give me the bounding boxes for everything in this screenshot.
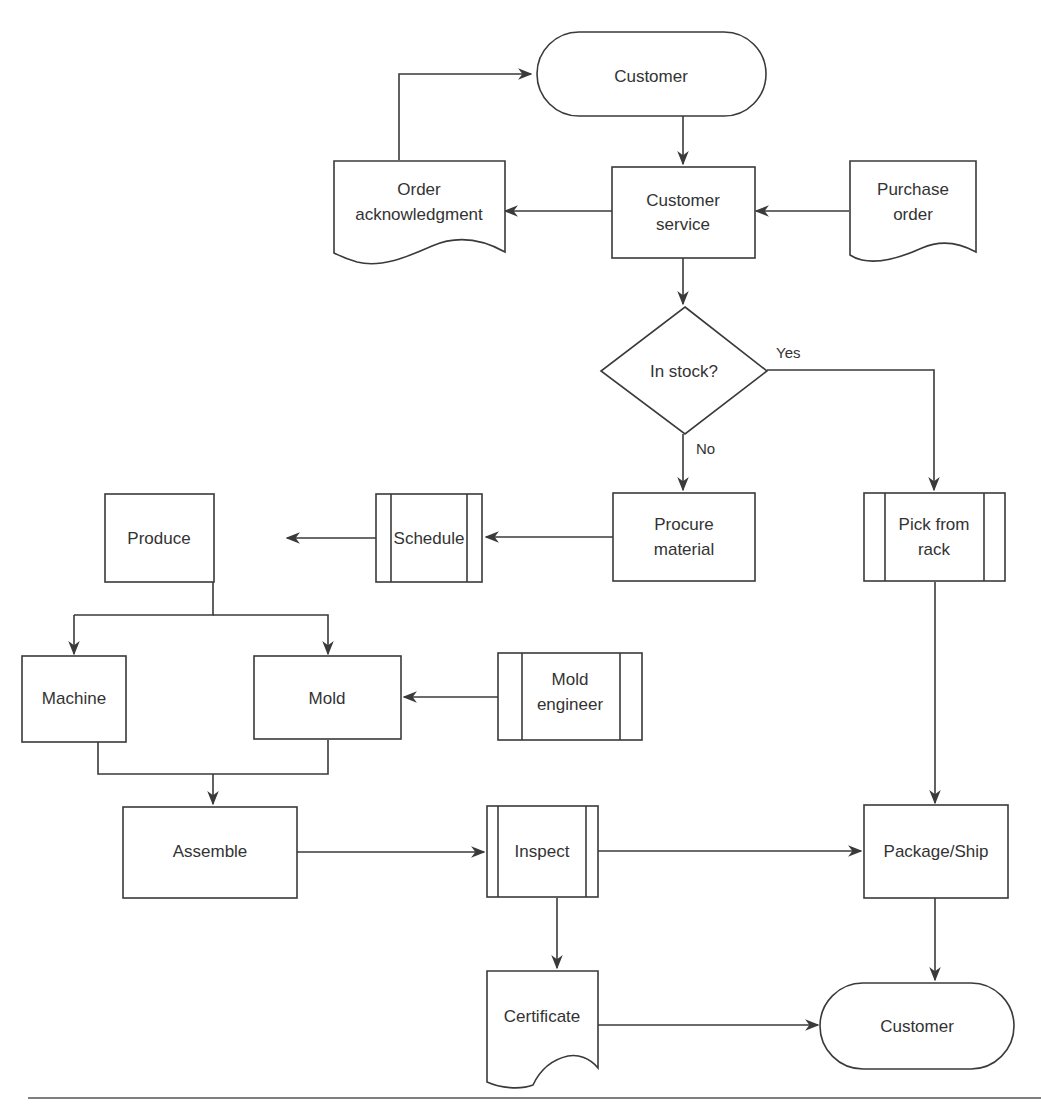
no-label: No	[696, 440, 715, 457]
node-in-stock-decision[interactable]: In stock?	[601, 307, 767, 434]
node-label: Customer	[614, 67, 688, 86]
edge-produce-split	[74, 582, 213, 615]
edge-merge-to-assemble	[98, 740, 328, 774]
node-assemble[interactable]: Assemble	[123, 807, 297, 898]
node-label-line1: Customer	[646, 191, 720, 210]
node-label: Assemble	[173, 842, 248, 861]
node-label: Mold	[309, 689, 346, 708]
node-label: Inspect	[515, 842, 570, 861]
node-customer-service[interactable]: Customer service	[612, 167, 755, 258]
node-order-acknowledgment[interactable]: Order acknowledgment	[334, 161, 505, 264]
node-label-line2: order	[893, 205, 933, 224]
node-label: Package/Ship	[884, 842, 989, 861]
node-label: Machine	[42, 689, 106, 708]
node-label-line2: rack	[918, 540, 951, 559]
node-pick-from-rack[interactable]: Pick from rack	[864, 493, 1005, 581]
node-procure-material[interactable]: Procure material	[613, 493, 755, 581]
node-customer-bottom[interactable]: Customer	[820, 983, 1014, 1069]
node-label: Produce	[127, 529, 190, 548]
node-label: Certificate	[504, 1007, 581, 1026]
node-label: In stock?	[650, 362, 718, 381]
edge-yes-to-pick-rack	[767, 370, 934, 490]
node-label: Customer	[880, 1017, 954, 1036]
node-label-line1: Order	[397, 180, 441, 199]
node-label-line1: Procure	[654, 515, 714, 534]
node-label-line2: acknowledgment	[355, 205, 483, 224]
node-machine[interactable]: Machine	[22, 656, 126, 742]
node-label-line1: Purchase	[877, 180, 949, 199]
node-certificate[interactable]: Certificate	[487, 971, 598, 1088]
yes-label: Yes	[776, 344, 800, 361]
node-customer-top[interactable]: Customer	[537, 32, 766, 116]
node-inspect[interactable]: Inspect	[487, 806, 598, 897]
edge-produce-to-mold	[213, 615, 328, 654]
caption-cropped	[28, 1104, 508, 1113]
node-purchase-order[interactable]: Purchase order	[850, 161, 976, 261]
node-mold[interactable]: Mold	[254, 656, 401, 739]
node-label-line2: material	[654, 540, 714, 559]
edge-order-ack-to-customer	[399, 74, 531, 160]
node-label-line1: Mold	[552, 670, 589, 689]
flowchart-canvas: Yes No Customer Order acknowledgment Cus…	[0, 0, 1041, 1113]
node-package-ship[interactable]: Package/Ship	[864, 805, 1008, 898]
node-label-line1: Pick from	[899, 515, 970, 534]
node-schedule[interactable]: Schedule	[376, 494, 482, 582]
node-label: Schedule	[394, 529, 465, 548]
node-produce[interactable]: Produce	[105, 494, 214, 582]
node-label-line2: engineer	[537, 695, 604, 714]
node-label-line2: service	[656, 215, 710, 234]
node-mold-engineer[interactable]: Mold engineer	[498, 653, 642, 740]
